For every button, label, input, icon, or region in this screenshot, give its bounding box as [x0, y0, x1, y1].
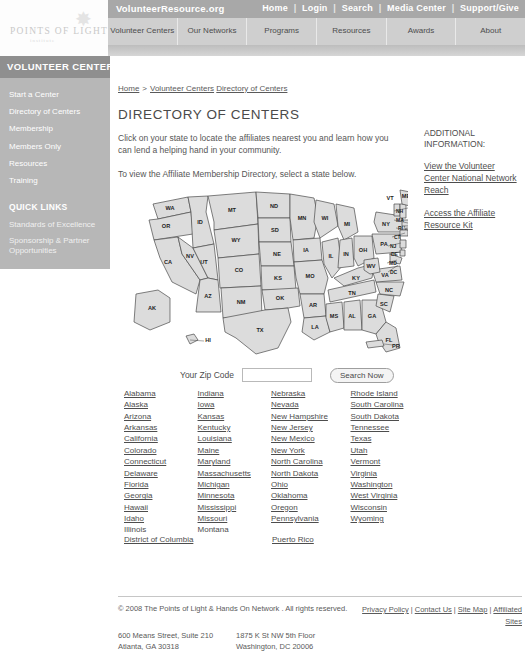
nav-tab-awards[interactable]: Awards [387, 18, 457, 45]
state-link-arizona[interactable]: Arizona [124, 411, 198, 422]
right-rail: ADDITIONAL INFORMATION: View the Volunte… [424, 128, 522, 242]
state-link-arkansas[interactable]: Arkansas [124, 422, 198, 433]
footer-link-affiliated-sites[interactable]: Affiliated Sites [493, 605, 522, 626]
state-link-maine[interactable]: Maine [198, 445, 272, 456]
sidebar-item-directory-of-centers[interactable]: Directory of Centers [0, 103, 110, 120]
state-link-texas[interactable]: Texas [351, 433, 425, 444]
state-link-vermont[interactable]: Vermont [351, 456, 425, 467]
main-content: Home>Volunteer Centers Directory of Cent… [118, 62, 408, 180]
map-state-hi [186, 334, 198, 344]
sidebar-quicklink-sponsorship-partner-opportunities[interactable]: Sponsorship & Partner Opportunities [0, 233, 110, 259]
state-link-district-of-columbia[interactable]: District of Columbia [124, 534, 272, 545]
map-label-wy: WY [231, 237, 240, 243]
state-link-louisiana[interactable]: Louisiana [198, 433, 272, 444]
state-link-nebraska[interactable]: Nebraska [271, 388, 350, 399]
state-link-mississippi[interactable]: Mississippi [198, 502, 272, 513]
state-link-wyoming[interactable]: Wyoming [351, 513, 425, 524]
zip-code-input[interactable] [242, 368, 312, 382]
util-link-media-center[interactable]: Media Center [387, 3, 446, 13]
sidebar-item-members-only[interactable]: Members Only [0, 138, 110, 155]
state-link-georgia[interactable]: Georgia [124, 490, 198, 501]
state-link-kentucky[interactable]: Kentucky [198, 422, 272, 433]
state-link-oklahoma[interactable]: Oklahoma [271, 490, 350, 501]
breadcrumb-home[interactable]: Home [118, 84, 139, 93]
state-link-new-mexico[interactable]: New Mexico [271, 433, 350, 444]
state-link-indiana[interactable]: Indiana [198, 388, 272, 399]
search-now-button[interactable]: Search Now [330, 368, 394, 383]
nav-tab-volunteer-centers[interactable]: Volunteer Centers [108, 18, 178, 45]
state-link-new-york[interactable]: New York [271, 445, 350, 456]
nav-tab-our-networks[interactable]: Our Networks [178, 18, 248, 45]
rail-heading: ADDITIONAL INFORMATION: [424, 128, 522, 151]
logo-wordmark: POINTS OF LIGHT [10, 26, 108, 36]
util-link-home[interactable]: Home [262, 3, 288, 13]
state-link-kansas[interactable]: Kansas [198, 411, 272, 422]
state-link-connecticut[interactable]: Connecticut [124, 456, 198, 467]
map-label-il: IL [329, 253, 335, 259]
sidebar-item-resources[interactable]: Resources [0, 155, 110, 172]
footer-address-atlanta-line2: Atlanta, GA 30318 [118, 641, 236, 652]
util-link-search[interactable]: Search [342, 3, 373, 13]
state-link-virginia[interactable]: Virginia [351, 468, 425, 479]
map-label-al: AL [348, 313, 356, 319]
state-link-colorado[interactable]: Colorado [124, 445, 198, 456]
state-link-pennsylvania[interactable]: Pennsylvania [271, 513, 350, 524]
state-link-rhode-island[interactable]: Rhode Island [351, 388, 425, 399]
state-link-florida[interactable]: Florida [124, 479, 198, 490]
footer-link-contact-us[interactable]: Contact Us [415, 605, 452, 614]
rail-link-network-reach[interactable]: View the Volunteer Center National Netwo… [424, 161, 522, 197]
state-link-tennessee[interactable]: Tennessee [351, 422, 425, 433]
state-link-michigan[interactable]: Michigan [198, 479, 272, 490]
state-link-maryland[interactable]: Maryland [198, 456, 272, 467]
state-link-south-dakota[interactable]: South Dakota [351, 411, 425, 422]
state-link-massachusetts[interactable]: Massachusetts [198, 468, 272, 479]
sidebar-item-start-a-center[interactable]: Start a Center [0, 86, 110, 103]
state-link-west-virginia[interactable]: West Virginia [351, 490, 425, 501]
footer-link-privacy-policy[interactable]: Privacy Policy [362, 605, 409, 614]
rail-link-affiliate-resource-kit[interactable]: Access the Affiliate Resource Kit [424, 208, 522, 232]
state-link-utah[interactable]: Utah [351, 445, 425, 456]
utility-nav: Home | Login | Search | Media Center | S… [262, 3, 519, 13]
state-link-hawaii[interactable]: Hawaii [124, 502, 198, 513]
nav-tab-resources[interactable]: Resources [317, 18, 387, 45]
footer-link-site-map[interactable]: Site Map [458, 605, 488, 614]
zip-code-label: Your Zip Code [180, 370, 234, 380]
state-link-california[interactable]: California [124, 433, 198, 444]
state-link-puerto-rico[interactable]: Puerto Rico [272, 534, 420, 545]
breadcrumb-volunteer-centers[interactable]: Volunteer Centers [150, 84, 214, 93]
state-link-idaho[interactable]: Idaho [124, 513, 198, 524]
sidebar-item-membership[interactable]: Membership [0, 120, 110, 137]
site-logo[interactable]: ✸ POINTS OF LIGHT institute [0, 0, 108, 56]
state-link-iowa[interactable]: Iowa [198, 399, 272, 410]
state-link-alaska[interactable]: Alaska [124, 399, 198, 410]
state-link-delaware[interactable]: Delaware [124, 468, 198, 479]
nav-tab-about[interactable]: About [456, 18, 525, 45]
util-link-support-give[interactable]: Support/Give [460, 3, 519, 13]
breadcrumb: Home>Volunteer Centers Directory of Cent… [118, 62, 408, 93]
sidebar-item-training[interactable]: Training [0, 172, 110, 189]
state-link-wisconsin[interactable]: Wisconsin [351, 502, 425, 513]
map-label-ri: RI [398, 225, 404, 231]
state-link-washington[interactable]: Washington [351, 479, 425, 490]
state-link-ohio[interactable]: Ohio [271, 479, 350, 490]
us-map-svg[interactable]: WA OR CA ID NV UT AZ MT WY CO NM ND SD N… [128, 182, 408, 360]
state-link-new-jersey[interactable]: New Jersey [271, 422, 350, 433]
state-link-minnesota[interactable]: Minnesota [198, 490, 272, 501]
state-link-alabama[interactable]: Alabama [124, 388, 198, 399]
sidebar-quicklink-standards-of-excellence[interactable]: Standards of Excellence [0, 217, 110, 233]
map-label-or: OR [162, 223, 170, 229]
nav-tab-programs[interactable]: Programs [247, 18, 317, 45]
state-link-nevada[interactable]: Nevada [271, 399, 350, 410]
state-link-new-hampshire[interactable]: New Hampshire [271, 411, 350, 422]
breadcrumb-current[interactable]: Directory of Centers [216, 84, 287, 93]
state-link-south-carolina[interactable]: South Carolina [351, 399, 425, 410]
instruction-paragraph: To view the Affiliate Membership Directo… [118, 168, 402, 180]
util-link-login[interactable]: Login [302, 3, 328, 13]
state-link-north-dakota[interactable]: North Dakota [271, 468, 350, 479]
map-label-nm: NM [237, 299, 246, 305]
page-title: DIRECTORY OF CENTERS [118, 107, 408, 122]
us-map[interactable]: WA OR CA ID NV UT AZ MT WY CO NM ND SD N… [128, 182, 408, 360]
state-link-oregon[interactable]: Oregon [271, 502, 350, 513]
state-link-north-carolina[interactable]: North Carolina [271, 456, 350, 467]
state-link-missouri[interactable]: Missouri [198, 513, 272, 524]
